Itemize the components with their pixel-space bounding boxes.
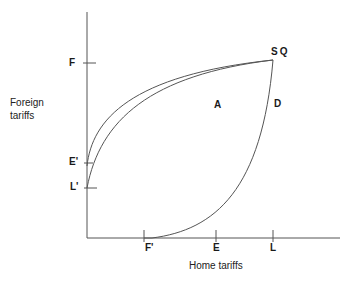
label-E: E: [213, 242, 220, 253]
y-axis-title-line1: Foreign: [10, 96, 44, 109]
label-L: L: [270, 242, 276, 253]
curve-from-E-prime-to-SQ: [87, 60, 273, 166]
label-E-prime: E': [69, 156, 78, 167]
x-axis-title: Home tariffs: [189, 259, 243, 272]
label-region-A: A: [214, 99, 221, 110]
label-F: F: [69, 57, 75, 68]
y-axis-title: Foreign tariffs: [10, 96, 44, 122]
label-F-prime: F': [145, 242, 154, 253]
y-axis-title-line2: tariffs: [10, 109, 44, 122]
label-L-prime: L': [70, 181, 79, 192]
curve-from-L-prime-to-SQ: [87, 60, 273, 188]
label-region-D: D: [274, 98, 281, 109]
label-SQ: SQ: [271, 46, 289, 57]
curve-from-F-prime-to-SQ: [152, 60, 273, 238]
tariff-diagram: [0, 0, 350, 281]
